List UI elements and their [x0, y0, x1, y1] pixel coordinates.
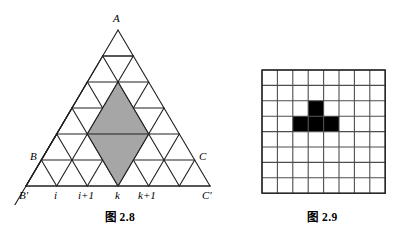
filled-cell-r4c3	[293, 116, 308, 131]
lattice-dl-5	[179, 160, 194, 186]
filled-cell-r3c4	[308, 101, 323, 116]
caption-figure-2-9: 图 2.9	[240, 208, 405, 224]
grid-lines	[262, 70, 385, 193]
label-tick-k-plus-1: k+1	[138, 190, 156, 201]
square-grid-svg	[240, 0, 405, 205]
label-tick-k: k	[115, 190, 120, 201]
label-tick-b-prime: B'	[19, 190, 28, 201]
filled-cell-r4c4	[308, 116, 323, 131]
lattice-lp-5	[41, 160, 56, 186]
label-vertex-A: A	[113, 13, 120, 24]
label-tick-i-plus-1: i+1	[78, 190, 94, 201]
label-vertex-C: C	[199, 151, 206, 162]
figure-2-8: A B C B' i i+1 k k+1 C' 图 2.8	[0, 0, 240, 243]
figure-page: A B C B' i i+1 k k+1 C' 图 2.8	[0, 0, 405, 243]
label-vertex-B: B	[30, 151, 37, 162]
figure-2-9: 图 2.9	[240, 0, 405, 243]
triangular-lattice-svg	[0, 0, 240, 205]
filled-cell-r4c5	[324, 116, 339, 131]
label-tick-i: i	[54, 190, 57, 201]
label-tick-c-prime: C'	[202, 190, 212, 201]
caption-figure-2-8: 图 2.8	[0, 208, 240, 224]
